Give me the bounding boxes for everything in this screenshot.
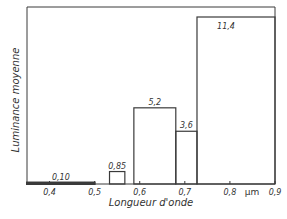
bar-value-labels: 0,100,855,23,611,4 [52, 22, 235, 182]
x-tick-label: 0,8 [224, 188, 237, 197]
histogram-bar [110, 172, 125, 184]
bar-value-label: 5,2 [148, 98, 161, 107]
x-axis-label: Longueur d'onde [109, 197, 194, 208]
x-tick-label: 0,4 [43, 188, 56, 197]
x-tick-label: 0,6 [133, 188, 146, 197]
plot-frame [27, 7, 275, 184]
bar-value-label: 3,6 [180, 121, 193, 130]
chart: 0,100,855,23,611,4 0,40,50,60,70,80,9 µm… [0, 0, 287, 219]
bar-value-label: 11,4 [217, 22, 235, 31]
x-tick-label: 0,9 [269, 188, 282, 197]
bar-value-label: 0,10 [52, 173, 70, 182]
y-axis-label: Luminance moyenne [10, 48, 21, 153]
histogram-bar [134, 108, 176, 184]
x-tick-label: 0,5 [88, 188, 101, 197]
histogram-bar [27, 183, 95, 184]
x-axis-unit: µm [245, 187, 260, 197]
x-tick-label: 0,7 [178, 188, 192, 197]
histogram-bar [176, 131, 197, 184]
histogram-bar [197, 17, 275, 184]
bar-value-label: 0,85 [108, 162, 126, 171]
